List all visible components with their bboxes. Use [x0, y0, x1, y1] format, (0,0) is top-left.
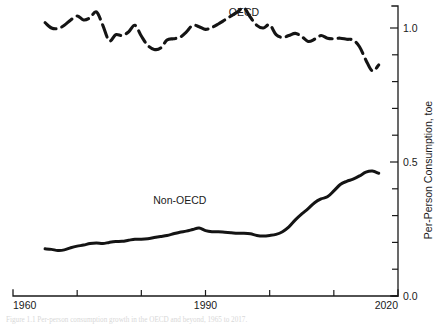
series-group: [45, 8, 379, 251]
x-axis: [13, 290, 398, 296]
figure-caption: Figure 1.1 Per-person consumption growth…: [6, 316, 438, 325]
figure-container: 196019902020 0.00.51.0 OECD Non-OECD Per…: [0, 0, 442, 327]
x-axis-ticks: [77, 290, 334, 296]
y-tick-label: 0.5: [403, 156, 418, 168]
y-axis-ticks: [390, 28, 398, 296]
x-tick-label: 2020: [375, 299, 399, 311]
y-tick-labels: 0.00.51.0: [403, 22, 418, 302]
y-tick-label: 1.0: [403, 22, 418, 34]
x-tick-label: 1990: [194, 299, 218, 311]
series-line-non-oecd: [45, 171, 379, 250]
y-tick-label: 0.0: [403, 290, 418, 302]
x-tick-label: 1960: [13, 299, 37, 311]
series-line-oecd: [45, 8, 379, 71]
series-label-non-oecd: Non-OECD: [153, 194, 207, 206]
series-label-oecd: OECD: [229, 6, 260, 18]
y-axis-title: Per-Person Consumption, toe: [422, 101, 434, 239]
x-tick-labels: 196019902020: [13, 299, 398, 311]
y-axis: [390, 6, 398, 296]
chart-canvas: 196019902020 0.00.51.0 OECD Non-OECD Per…: [0, 0, 442, 327]
